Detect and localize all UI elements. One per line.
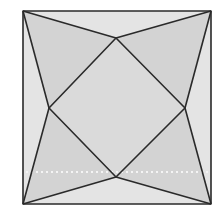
geometric-diagram xyxy=(0,0,223,223)
